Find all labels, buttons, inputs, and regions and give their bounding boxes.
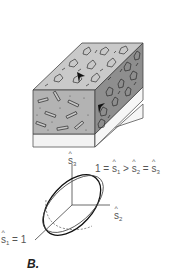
label-s3: s3 (68, 156, 76, 167)
label-s1: s1 = 1 (1, 235, 26, 246)
relation-s2: s (132, 164, 137, 174)
relation-eq: = (140, 163, 151, 174)
s2-subscript: 2 (119, 216, 122, 222)
label-s2: s2 (114, 211, 122, 222)
relation-gt: > (120, 163, 131, 174)
ellipsoid-hidden-edge (46, 200, 92, 230)
s2-symbol: s (114, 211, 119, 221)
relation-prefix: 1 = (95, 163, 112, 174)
s1-symbol: s (1, 235, 6, 245)
fabric-block (33, 43, 143, 147)
relation-s1: s (112, 164, 117, 174)
label-relation: 1 = s1 > s2 = s3 (95, 164, 160, 175)
panel-label: B. (27, 257, 39, 271)
s3-subscript: 3 (73, 161, 76, 167)
diagram-figure: s3 1 = s1 > s2 = s3 s2 s1 = 1 B. (0, 0, 178, 278)
strain-ellipsoid (32, 164, 113, 246)
s1-suffix: = 1 (9, 234, 26, 245)
relation-s3-sub: 3 (156, 169, 159, 175)
base-strip-front (33, 134, 95, 147)
s3-symbol: s (68, 156, 73, 166)
diagram-svg (0, 0, 178, 278)
relation-s3: s (151, 164, 156, 174)
